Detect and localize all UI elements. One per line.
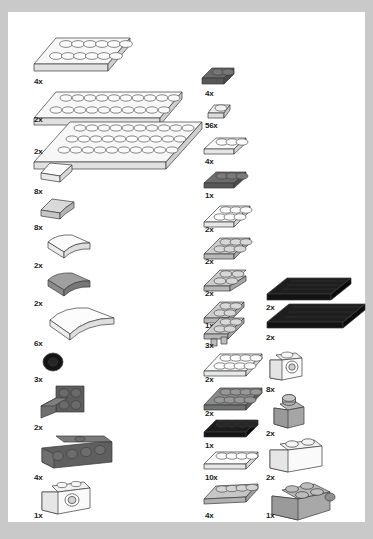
part-plate-1x4-light-gray	[200, 480, 266, 510]
qty-bracket-2x2-dark-gray: 2x	[34, 424, 42, 432]
qty-plate-1x3-dark-gray: 1x	[205, 192, 213, 200]
qty-plate-2x6: 4x	[34, 78, 42, 86]
instruction-sheet: 4x 2x	[8, 12, 365, 522]
qty-plate-2x2-corner-light-gray: 2x	[205, 290, 213, 298]
qty-brick-1x1-headlight-white: 8x	[266, 386, 274, 394]
part-slope-curved-white-small	[38, 160, 78, 188]
qty-plate-4x12: 2x	[34, 148, 42, 156]
part-plate-1x4-white	[200, 448, 266, 476]
part-brick-1x2-with-hole-white	[38, 480, 96, 522]
qty-slope-curved-white-wide-4x2: 6x	[34, 340, 42, 348]
part-bracket-1x4-dark-gray	[34, 432, 118, 474]
qty-plate-2x3-white: 2x	[205, 226, 213, 234]
qty-plate-1x3-white: 4x	[205, 158, 213, 166]
part-brick-1x2-white	[266, 436, 328, 480]
qty-slope-curved-white-2x2: 2x	[34, 262, 42, 270]
qty-brick-2x2-with-pins-medium-gray: 1x	[266, 512, 274, 520]
qty-tire-small-black: 3x	[34, 376, 42, 384]
qty-plate-1x1-white: 56x	[205, 122, 217, 130]
qty-plate-2x4-white: 2x	[205, 376, 213, 384]
part-slope-curved-white-2x2	[34, 232, 96, 264]
part-brick-1x1-headlight-white	[266, 350, 308, 386]
part-slope-curved-white-wide-4x2	[34, 304, 120, 344]
part-plate-2x6	[30, 34, 138, 78]
part-tire-small-black	[40, 350, 68, 376]
qty-plate-1x2-dark-gray: 4x	[205, 90, 213, 98]
qty-plate-2x2-with-pin-light-gray: 3x	[205, 342, 213, 350]
qty-plate-2x3-light-gray: 2x	[205, 258, 213, 266]
part-brick-1x1-medium-gray	[270, 394, 310, 434]
qty-brick-1x2-with-hole-white: 1x	[34, 512, 42, 520]
qty-slope-light-gray-small: 8x	[34, 224, 42, 232]
part-bracket-2x2-dark-gray	[38, 384, 94, 424]
part-tile-1x10-black	[263, 300, 373, 334]
part-brick-2x2-with-pins-medium-gray	[266, 478, 338, 530]
qty-tile-1x10-black: 2x	[266, 334, 274, 342]
qty-slope-curved-white-small: 8x	[34, 188, 42, 196]
part-plate-1x4-black	[200, 416, 266, 444]
part-slope-curved-dark-gray-2x2	[34, 270, 96, 302]
part-slope-light-gray-small	[38, 196, 82, 224]
part-plate-1x2-dark-gray	[198, 64, 240, 90]
qty-plate-1x4-light-gray: 4x	[205, 512, 213, 520]
